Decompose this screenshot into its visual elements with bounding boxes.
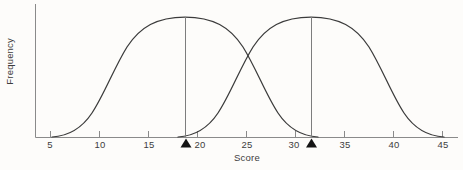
y-axis-title: Frequency — [4, 38, 15, 85]
mean-marker-1-icon — [181, 139, 192, 148]
x-tick-label-20: 20 — [195, 139, 206, 150]
x-tick-label-15: 15 — [144, 139, 155, 150]
x-tick-label-5: 5 — [47, 139, 52, 150]
x-tick-label-45: 45 — [438, 139, 449, 150]
x-axis-title: Score — [234, 152, 260, 163]
chart-figure: 5 10 15 20 25 30 35 40 45 Score Frequenc… — [0, 0, 463, 170]
x-tick-label-30: 30 — [289, 139, 300, 150]
x-axis-ticks — [51, 131, 443, 138]
x-tick-label-35: 35 — [340, 139, 351, 150]
x-tick-label-40: 40 — [389, 139, 400, 150]
x-tick-label-10: 10 — [95, 139, 106, 150]
x-tick-label-25: 25 — [242, 139, 253, 150]
mean-marker-2-icon — [306, 139, 317, 148]
